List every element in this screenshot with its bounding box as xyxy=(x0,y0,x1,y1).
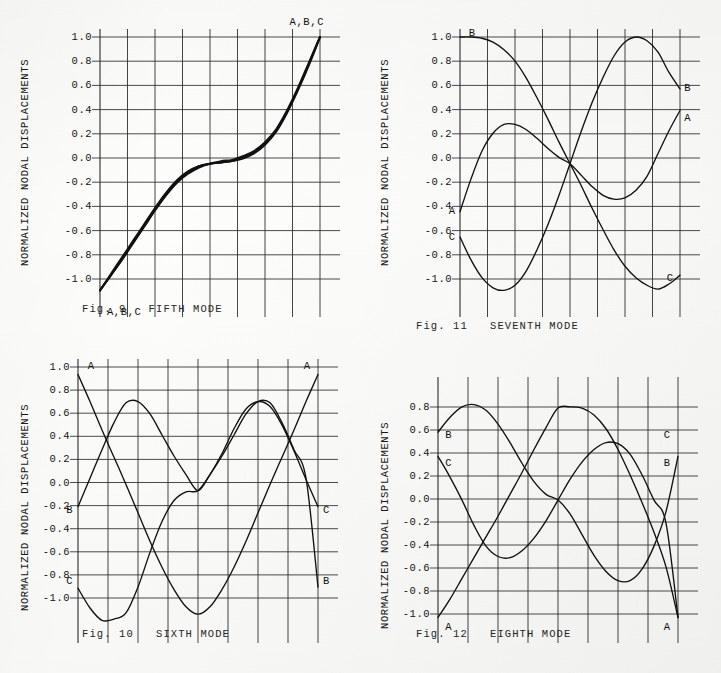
curve-endpoint-label: B xyxy=(445,429,452,441)
figure-sixth-mode: NORMALIZED NODAL DISPLACEMENTS 1.00.80.6… xyxy=(0,345,361,673)
curve-endpoint-label: C xyxy=(664,429,671,441)
curve-endpoint-label: B xyxy=(66,504,73,516)
curve-endpoint-label: C xyxy=(323,504,330,516)
curve-endpoint-label: A xyxy=(88,360,95,372)
figure-caption: Fig. 11 SEVENTH MODE xyxy=(416,320,579,332)
plot-area-sixth-mode: NORMALIZED NODAL DISPLACEMENTS 1.00.80.6… xyxy=(0,345,361,673)
curve-endpoint-label: C xyxy=(66,575,73,587)
curve-endpoint-label: A xyxy=(449,205,456,217)
curve-endpoint-label: C xyxy=(667,272,674,284)
plot-area-eighth-mode: NORMALIZED NODAL DISPLACEMENTS 0.80.60.4… xyxy=(360,345,721,673)
figure-caption: Fig. 12 EIGHTH MODE xyxy=(416,628,571,640)
curve-endpoint-label: A,B,C xyxy=(290,16,325,28)
chart-canvas-sixth-mode xyxy=(0,345,361,673)
figure-caption: Fig. 9 FIFTH MODE xyxy=(82,303,223,315)
curve-endpoint-label: B xyxy=(664,457,671,469)
curve-endpoint-label: B xyxy=(469,27,476,39)
curve-endpoint-label: B xyxy=(684,82,691,94)
plot-area-fifth-mode: NORMALIZED NODAL DISPLACEMENTS 1.00.80.6… xyxy=(0,0,361,328)
curve-endpoint-label: C xyxy=(449,231,456,243)
plot-area-seventh-mode: NORMALIZED NODAL DISPLACEMENTS 1.00.80.6… xyxy=(360,0,721,328)
curve-endpoint-label: A xyxy=(304,360,311,372)
figure-caption: Fig. 10 SIXTH MODE xyxy=(82,628,230,640)
curve-endpoint-label: C xyxy=(445,457,452,469)
curve-endpoint-label: A xyxy=(684,112,691,124)
figure-eighth-mode: NORMALIZED NODAL DISPLACEMENTS 0.80.60.4… xyxy=(360,345,721,673)
curve-endpoint-label: A xyxy=(664,621,671,633)
figure-seventh-mode: NORMALIZED NODAL DISPLACEMENTS 1.00.80.6… xyxy=(360,0,721,328)
chart-canvas-fifth-mode xyxy=(0,0,361,328)
figure-fifth-mode: NORMALIZED NODAL DISPLACEMENTS 1.00.80.6… xyxy=(0,0,361,328)
curve-endpoint-label: B xyxy=(323,575,330,587)
